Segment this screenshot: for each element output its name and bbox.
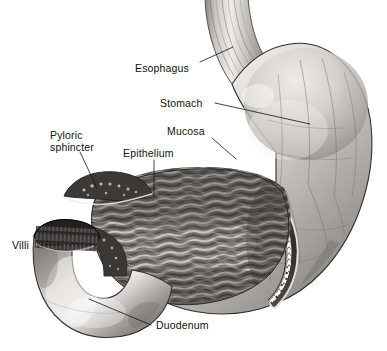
stomach-anatomy-figure: Esophagus Stomach Pyloric sphincter Epit… xyxy=(0,0,387,351)
label-pyloric-sphincter-line1: Pyloric xyxy=(50,129,83,141)
label-esophagus: Esophagus xyxy=(135,62,189,74)
label-mucosa: Mucosa xyxy=(167,125,205,137)
label-epithelium: Epithelium xyxy=(123,147,174,159)
label-pyloric-sphincter-line2: sphincter xyxy=(50,141,94,153)
label-duodenum: Duodenum xyxy=(156,319,209,331)
label-stomach: Stomach xyxy=(160,97,203,109)
label-villi: Villi xyxy=(12,239,29,251)
anatomy-illustration: Esophagus Stomach Pyloric sphincter Epit… xyxy=(0,0,387,351)
